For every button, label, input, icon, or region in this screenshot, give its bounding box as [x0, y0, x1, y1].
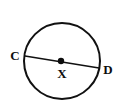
circle-diagram: C X D — [0, 0, 118, 107]
label-center-x: X — [57, 66, 67, 81]
center-point-dot — [58, 58, 64, 64]
geometry-figure: C X D — [0, 0, 118, 107]
label-point-d: D — [103, 62, 112, 77]
label-point-c: C — [10, 48, 19, 63]
